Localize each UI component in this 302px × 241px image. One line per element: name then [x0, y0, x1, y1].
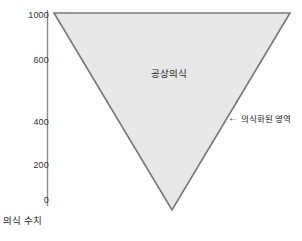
- conscious-region-callout: ← 의식화된 영역: [228, 112, 291, 124]
- region-label-fantasy-consciousness: 공상의식: [133, 66, 205, 80]
- y-tick-label-0: 0: [44, 195, 49, 205]
- y-axis-title: 의식 수치: [3, 213, 42, 227]
- chart-figure: 1000 600 400 200 0 공상의식 ← 의식화된 영역 의식 수치: [0, 0, 302, 241]
- y-tick-label-200: 200: [33, 160, 49, 170]
- y-tick-label-400: 400: [33, 117, 49, 127]
- conscious-region-callout-label: 의식화된 영역: [241, 112, 291, 124]
- y-tick-label-600: 600: [33, 55, 49, 65]
- y-tick-label-1000: 1000: [28, 10, 49, 20]
- left-arrow-icon: ←: [228, 113, 238, 123]
